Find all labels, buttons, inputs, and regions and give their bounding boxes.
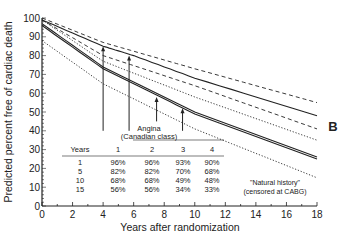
table-cell: 49% <box>175 176 190 185</box>
x-tick-label: 16 <box>281 209 293 220</box>
arrow-head-icon <box>127 56 131 61</box>
series-line <box>42 18 317 103</box>
x-tick-label: 18 <box>311 209 323 220</box>
table-cell: 10 <box>76 176 84 185</box>
table-cell: 48% <box>204 176 219 185</box>
table-header: 4 <box>210 145 214 154</box>
table-cell: 5 <box>78 167 82 176</box>
natural-history-label: "Natural history" <box>250 179 301 187</box>
table-header: 1 <box>116 145 120 154</box>
table-cell: 70% <box>175 167 190 176</box>
x-tick-label: 8 <box>161 209 167 220</box>
table-header: 3 <box>181 145 185 154</box>
series-line <box>42 26 317 160</box>
y-tick-label: 60 <box>29 88 41 99</box>
x-tick-label: 6 <box>131 209 137 220</box>
x-axis-label: Years after randomization <box>120 221 239 233</box>
table-cell: 96% <box>144 158 159 167</box>
y-tick-label: 80 <box>29 50 41 61</box>
table-cell: 1 <box>78 158 82 167</box>
survival-table: Years1234196%96%93%90%582%82%70%68%1068%… <box>62 140 224 194</box>
table-cell: 56% <box>144 185 159 194</box>
y-tick-label: 40 <box>29 125 41 136</box>
table-cell: 90% <box>204 158 219 167</box>
y-tick-label: 70 <box>29 69 41 80</box>
table-title-class: (Canadian class) <box>121 132 178 141</box>
x-tick-label: 2 <box>70 209 76 220</box>
y-tick-label: 90 <box>29 31 41 42</box>
table-header: 2 <box>150 145 154 154</box>
table-cell: 68% <box>144 176 159 185</box>
table-cell: 68% <box>110 176 125 185</box>
table-cell: 93% <box>175 158 190 167</box>
table-cell: 33% <box>204 185 219 194</box>
table-cell: 56% <box>110 185 125 194</box>
y-tick-label: 20 <box>29 163 41 174</box>
table-header: Years <box>71 145 90 154</box>
table-cell: 15 <box>76 185 84 194</box>
x-tick-label: 4 <box>100 209 106 220</box>
y-tick-label: 50 <box>29 107 41 118</box>
table-cell: 34% <box>175 185 190 194</box>
y-axis-label: Predicted percent free of cardiac death <box>2 21 14 202</box>
table-cell: 68% <box>204 167 219 176</box>
x-tick-label: 12 <box>220 209 232 220</box>
natural-history-note: (censored at CABG) <box>243 188 306 196</box>
series-line <box>42 20 317 129</box>
x-tick-label: 14 <box>250 209 262 220</box>
y-tick-label: 30 <box>29 144 41 155</box>
x-tick-label: 0 <box>39 209 45 220</box>
y-tick-label: 10 <box>29 182 41 193</box>
table-cell: 82% <box>110 167 125 176</box>
panel-label: B <box>328 119 337 134</box>
series-line <box>42 24 317 158</box>
table-cell: 82% <box>144 167 159 176</box>
arrow-head-icon <box>155 97 159 102</box>
table-cell: 96% <box>110 158 125 167</box>
y-tick-label: 100 <box>23 13 40 24</box>
x-tick-label: 10 <box>189 209 201 220</box>
y-tick-label: 0 <box>34 201 40 212</box>
survival-chart: 0246810121416180102030405060708090100 Pr… <box>0 0 345 242</box>
